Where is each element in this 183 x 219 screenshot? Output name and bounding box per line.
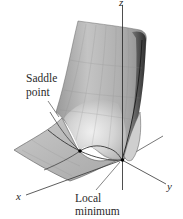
surface-plot [0,0,183,219]
local-min-label-line2: minimum [75,205,120,217]
z-axis-label: z [119,0,123,8]
local-min-label-line1: Local [75,192,101,204]
saddle-label-line2: point [26,86,50,98]
saddle-label-line1: Saddle [26,72,57,84]
surface-figure: z x y Saddle point Local minimum [0,0,183,219]
y-axis [122,160,166,184]
y-axis-label: y [167,180,172,192]
local-minimum-marker [121,158,125,162]
saddle-point-marker [78,149,82,153]
x-axis-label: x [16,190,21,202]
